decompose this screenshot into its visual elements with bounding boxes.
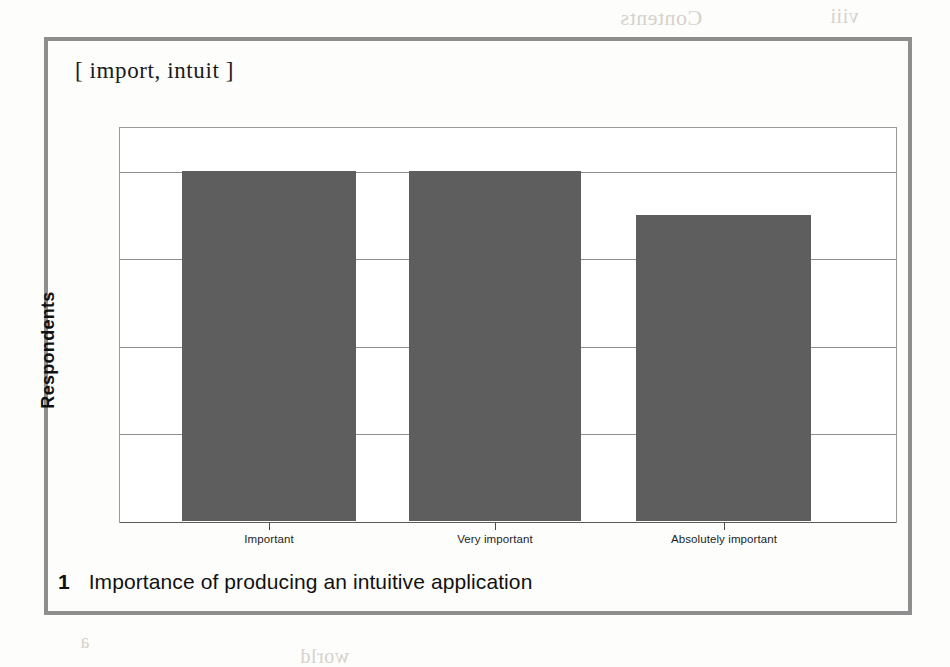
chart-plot-area [119,127,897,523]
x-axis-tick-label: Important [244,533,293,545]
bar [636,215,811,521]
chart-plot-inner [120,128,896,522]
y-axis-title: Respondents [38,291,59,408]
x-axis-tick [724,523,725,530]
x-axis-tick-labels: ImportantVery importantAbsolutely import… [119,533,897,553]
x-axis-tick [495,523,496,530]
figure-caption: 1 Importance of producing an intuitive a… [58,570,532,594]
figure-caption-number: 1 [58,570,70,594]
x-axis-tick-label: Very important [457,533,533,545]
y-axis: 02468 [119,127,120,523]
x-axis-tick [269,523,270,530]
bar [409,171,581,521]
chart-title: [ import, intuit ] [75,58,234,84]
x-axis-ticks [119,523,897,531]
bar [182,171,356,521]
x-axis-tick-label: Absolutely important [671,533,777,545]
figure-caption-text: Importance of producing an intuitive app… [89,570,533,594]
